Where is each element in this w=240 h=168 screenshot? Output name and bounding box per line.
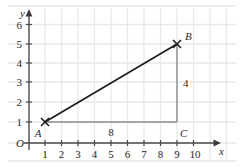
x-tick-label-7: 7: [141, 148, 147, 160]
x-axis-label: x: [218, 145, 224, 157]
y-tick-label-3: 3: [17, 76, 23, 88]
y-tick-label-6: 6: [17, 19, 23, 31]
annotation-rise-length: 4: [183, 77, 189, 89]
point-label-b: B: [185, 30, 192, 42]
origin-label: O: [16, 137, 24, 149]
point-label-a: A: [34, 127, 42, 139]
point-label-c: C: [180, 127, 188, 139]
x-tick-label-2: 2: [59, 148, 65, 160]
y-tick-label-2: 2: [17, 96, 23, 108]
x-tick-label-5: 5: [108, 148, 114, 160]
coordinate-grid-figure: y x O 6 5 4 3 2 1 1 2 3 4 5 6 7 8 9 10 A…: [0, 0, 240, 168]
y-axis-label: y: [19, 7, 25, 19]
x-tick-label-9: 9: [174, 148, 180, 160]
x-tick-label-6: 6: [125, 148, 131, 160]
y-tick-label-5: 5: [17, 38, 23, 50]
annotation-run-length: 8: [108, 126, 114, 138]
x-tick-label-4: 4: [92, 148, 98, 160]
y-tick-label-1: 1: [17, 116, 23, 128]
x-tick-label-1: 1: [42, 148, 48, 160]
x-tick-label-10: 10: [190, 148, 202, 160]
x-tick-label-8: 8: [158, 148, 164, 160]
x-tick-label-3: 3: [75, 148, 81, 160]
y-tick-label-4: 4: [17, 57, 23, 69]
